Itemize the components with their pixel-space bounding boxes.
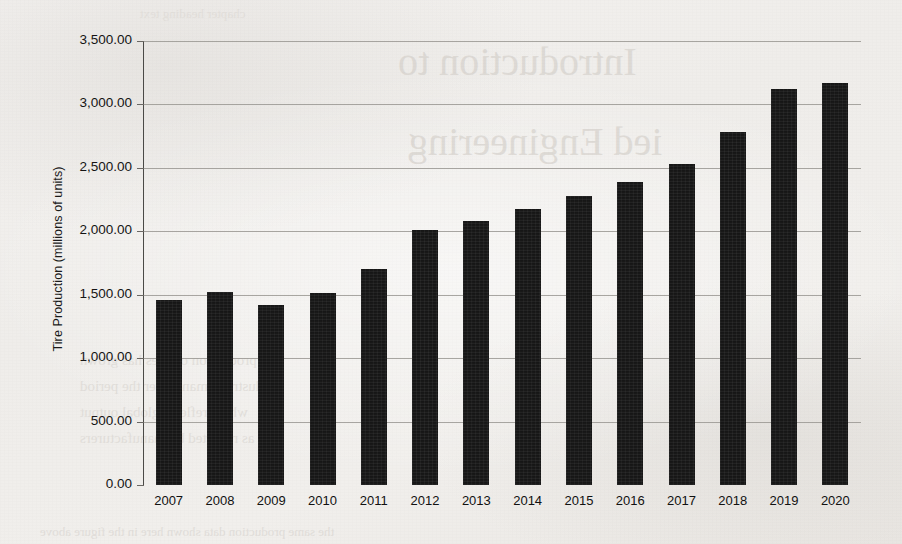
bar-2011 [361, 269, 387, 485]
gridline [143, 422, 861, 423]
gridline [143, 168, 861, 169]
x-axis-label-2017: 2017 [656, 493, 707, 508]
y-axis-tick [137, 358, 144, 359]
x-axis-label-2013: 2013 [451, 493, 502, 508]
y-axis-tick-label: 2,500.00 [12, 159, 132, 174]
x-axis-label-2018: 2018 [707, 493, 758, 508]
y-axis-tick [137, 231, 144, 232]
bar-2010 [310, 293, 336, 485]
y-axis-tick-label: 2,000.00 [12, 222, 132, 237]
bar-2009 [258, 305, 284, 485]
y-axis-tick [137, 295, 144, 296]
gridline [143, 104, 861, 105]
gridline [143, 295, 861, 296]
x-axis-label-2014: 2014 [502, 493, 553, 508]
bar-2017 [669, 164, 695, 485]
gridline [143, 41, 861, 42]
bar-2007 [156, 300, 182, 485]
x-axis-label-2010: 2010 [297, 493, 348, 508]
y-axis-tick-label: 1,500.00 [12, 286, 132, 301]
plot-area: 2007200820092010201120122013201420152016… [143, 41, 861, 485]
y-axis-tick-label: 500.00 [12, 413, 132, 428]
bar-2015 [566, 196, 592, 485]
x-axis-label-2012: 2012 [399, 493, 450, 508]
y-axis-tick [137, 168, 144, 169]
y-axis-tick-label: 3,500.00 [12, 32, 132, 47]
x-axis-label-2015: 2015 [553, 493, 604, 508]
y-axis-tick-label: 3,000.00 [12, 95, 132, 110]
y-axis-tick [137, 104, 144, 105]
y-axis-tick-label: 0.00 [12, 476, 132, 491]
x-axis-label-2009: 2009 [246, 493, 297, 508]
bar-2019 [771, 89, 797, 485]
gridline [143, 358, 861, 359]
y-axis-tick [137, 422, 144, 423]
bar-chart: Tire Production (millions of units) 2007… [0, 0, 902, 544]
y-axis-tick [137, 41, 144, 42]
bar-2012 [412, 230, 438, 485]
gridline [143, 231, 861, 232]
y-axis-tick [137, 485, 144, 486]
bar-2018 [720, 132, 746, 485]
x-axis-label-2020: 2020 [810, 493, 861, 508]
bar-2014 [515, 209, 541, 485]
bar-2020 [822, 83, 848, 485]
x-axis-label-2007: 2007 [143, 493, 194, 508]
x-axis-label-2016: 2016 [605, 493, 656, 508]
bar-2008 [207, 292, 233, 485]
y-axis-tick-label: 1,000.00 [12, 349, 132, 364]
x-axis-label-2011: 2011 [348, 493, 399, 508]
x-axis-label-2019: 2019 [758, 493, 809, 508]
bar-2016 [617, 182, 643, 485]
bar-2013 [463, 221, 489, 485]
x-axis-label-2008: 2008 [194, 493, 245, 508]
